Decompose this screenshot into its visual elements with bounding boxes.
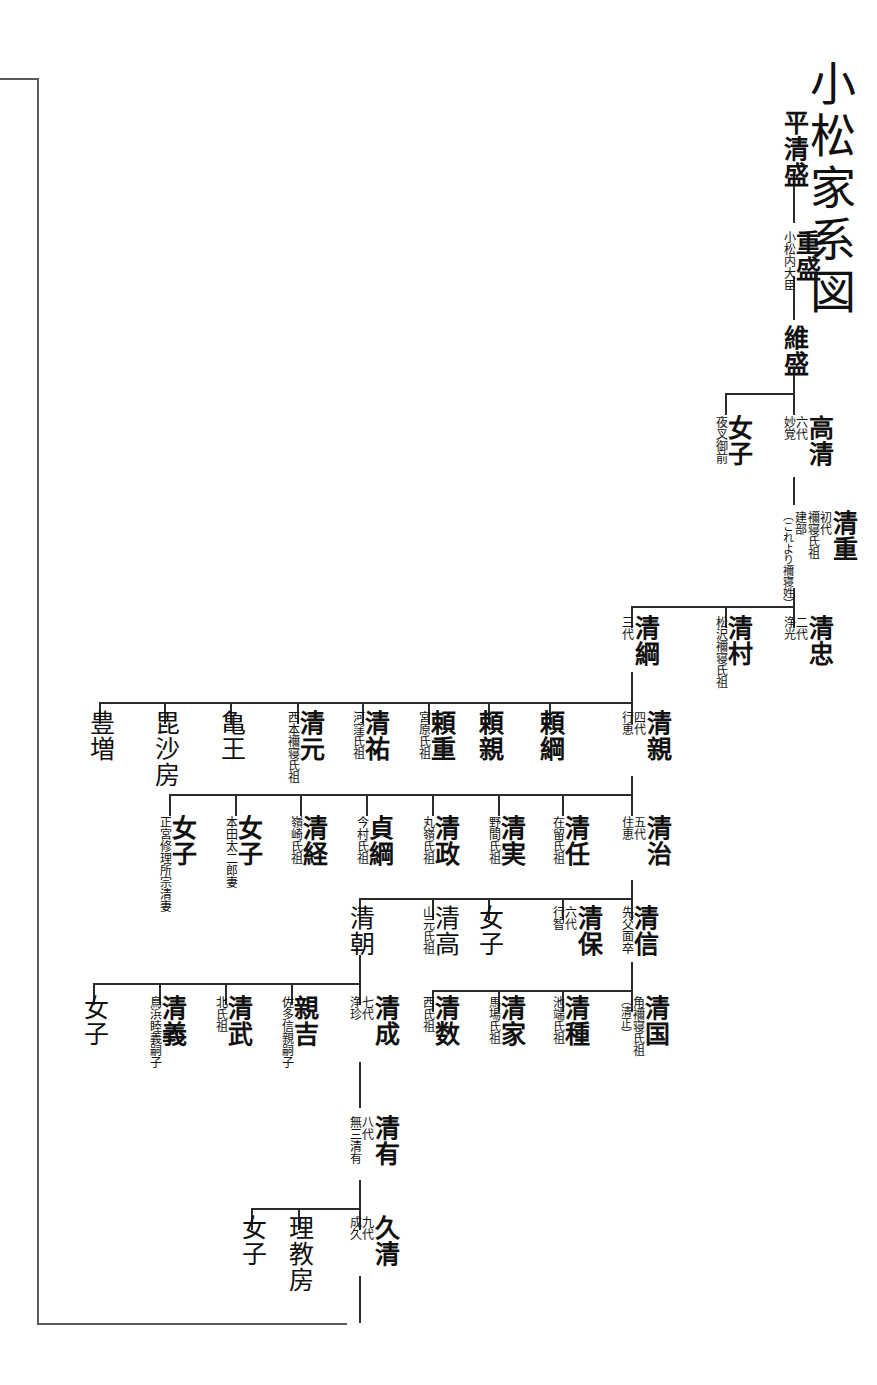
- person-name: 清忠: [807, 615, 832, 667]
- person-name: 久清: [373, 1215, 398, 1267]
- person-name: 貞綱: [367, 815, 392, 867]
- person-name: 清親: [645, 710, 670, 762]
- person-node: 平清盛: [782, 110, 807, 188]
- person-node: 女子夜叉御前: [714, 415, 751, 467]
- person-node: 清高山元氏祖: [421, 905, 458, 957]
- person-node: 清信先父面卒: [620, 905, 657, 957]
- person-name: 清義: [160, 995, 185, 1047]
- person-node: 女子: [477, 905, 502, 957]
- person-node: 女子: [82, 995, 107, 1047]
- person-name: 清経: [301, 815, 326, 867]
- person-name: 清家: [499, 995, 524, 1047]
- person-name: 清成: [373, 995, 398, 1047]
- person-node: 女子: [240, 1215, 265, 1267]
- person-node: 清成七代浄珍: [348, 995, 398, 1047]
- person-name: 清実: [499, 815, 524, 867]
- group-kiyochika-children-drop: [432, 794, 434, 816]
- person-name: 女子: [726, 415, 751, 467]
- person-name: 清祐: [363, 710, 388, 762]
- person-name: 清朝: [348, 905, 373, 957]
- person-node: 亀王: [219, 710, 244, 762]
- person-name: 清国: [643, 995, 668, 1047]
- person-node: 清親四代行恵: [620, 710, 670, 762]
- person-node: 女子正宮修理所宗清妻: [158, 815, 195, 912]
- person-node: 頼重宮原氏祖: [417, 710, 454, 762]
- person-name: 清種: [563, 995, 588, 1047]
- person-name: 清治: [645, 815, 670, 867]
- person-name: 清数: [433, 995, 458, 1047]
- person-node: 清武北氏祖: [214, 995, 251, 1047]
- person-node: 清数西氏祖: [421, 995, 458, 1047]
- group-koremori-children-bar: [725, 393, 795, 395]
- stem-kiyoharu-down: [631, 880, 633, 898]
- person-name: 清綱: [633, 615, 658, 667]
- stem-kiyonari-kiyoari: [359, 1062, 361, 1108]
- continuation-bracket-bottom: [37, 1323, 347, 1325]
- person-node: 高清六代妙覚: [782, 415, 832, 467]
- person-node: 維盛: [782, 325, 807, 377]
- person-name: 清重: [831, 510, 856, 562]
- person-name: 清元: [298, 710, 323, 762]
- group-kiyochika-children-drop: [300, 794, 302, 816]
- person-name: 理教房: [287, 1215, 312, 1293]
- person-node: 清村松沢襧寝氏祖: [714, 615, 751, 688]
- person-node: 清朝: [348, 905, 373, 957]
- person-node: 頼綱: [538, 710, 563, 762]
- family-tree-canvas: 小松家系図 平清盛重盛小松内大臣維盛高清六代妙覚女子夜叉御前清重初代襧寝氏祖建部…: [0, 0, 877, 1385]
- person-name: 女子: [236, 815, 261, 867]
- person-name: 清政: [433, 815, 458, 867]
- stem-kiyochika-down: [631, 776, 633, 794]
- group-kiyonobu-children-bar: [432, 990, 633, 992]
- group-kiyotsuna-children-bar: [99, 702, 633, 704]
- person-node: 豊増: [88, 710, 113, 762]
- person-node: 清義鳥浜睦義嗣子: [148, 995, 185, 1068]
- person-node: 清国角襧寝氏祖（清正）: [620, 995, 668, 1056]
- person-node: 清経嶺崎氏祖: [289, 815, 326, 867]
- group-kiyochika-children-drop: [169, 794, 171, 816]
- group-kiyochika-children-drop: [631, 794, 633, 816]
- group-koremori-children-drop: [725, 393, 727, 415]
- person-node: 清治五代住恵: [620, 815, 670, 867]
- person-node: 清祐河窪氏祖: [351, 710, 388, 762]
- continuation-bracket-top: [0, 78, 39, 80]
- person-name: 女子: [477, 905, 502, 957]
- stem-kiyonobu-down: [631, 962, 633, 990]
- person-name: 女子: [82, 995, 107, 1047]
- person-node: 親吉佐多信親嗣子: [280, 995, 317, 1068]
- group-kiyotomo-children-bar: [93, 983, 361, 985]
- person-node: 女子本田太二郎妻: [224, 815, 261, 888]
- stem-kiyoari-hisakiyo: [359, 1180, 361, 1208]
- group-hisakiyo-siblings-bar: [251, 1208, 361, 1210]
- person-node: 清元西本襧寝氏祖: [286, 710, 323, 783]
- group-kiyochika-children-drop: [498, 794, 500, 816]
- group-kiyochika-children-drop: [235, 794, 237, 816]
- group-kiyoshige-children-bar: [631, 606, 795, 608]
- person-name: 亀王: [219, 710, 244, 762]
- person-name: 清有: [373, 1115, 398, 1167]
- person-node: 清有八代無三清有: [348, 1115, 398, 1167]
- person-name: 頼綱: [538, 710, 563, 762]
- person-name: 平清盛: [782, 110, 807, 188]
- person-name: 清任: [563, 815, 588, 867]
- person-node: 清実野間氏祖: [487, 815, 524, 867]
- person-node: 重盛小松内大臣: [782, 230, 819, 291]
- person-name: 親吉: [292, 995, 317, 1047]
- group-kiyochika-children-drop: [366, 794, 368, 816]
- person-node: 久清九代成久: [348, 1215, 398, 1267]
- person-node: 清任在留氏祖: [551, 815, 588, 867]
- person-node: 貞綱今村氏祖: [355, 815, 392, 867]
- person-node: 清政丸嶺氏祖: [421, 815, 458, 867]
- stem-kiyotsuna-kiyochika: [631, 672, 633, 702]
- person-name: 豊増: [88, 710, 113, 762]
- person-node: 清忠二代浄光: [782, 615, 832, 667]
- person-name: 清信: [632, 905, 657, 957]
- person-node: 清綱三代: [620, 615, 658, 667]
- person-name: 清村: [726, 615, 751, 667]
- group-kiyochika-children-drop: [562, 794, 564, 816]
- person-node: 毘沙房: [153, 710, 178, 788]
- person-annotation: 建部: [793, 510, 805, 535]
- person-name: 清保: [576, 905, 601, 957]
- person-name: 維盛: [782, 325, 807, 377]
- stem-takakiyo-kiyoshige: [793, 477, 795, 505]
- person-name: 高清: [807, 415, 832, 467]
